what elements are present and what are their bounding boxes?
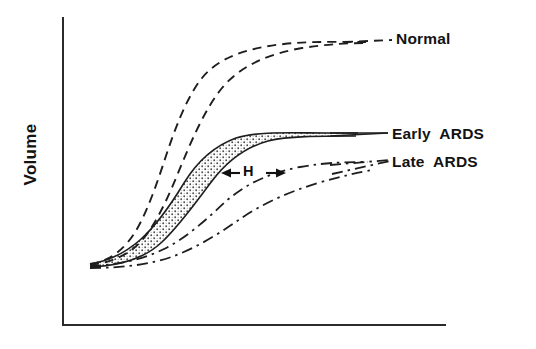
legend-label-normal: Normal — [396, 31, 451, 47]
normal-leader-line — [344, 40, 392, 42]
early-ards-hysteresis-area — [90, 133, 358, 267]
hysteresis-label: H — [243, 164, 253, 179]
hysteresis-arrow-group — [221, 169, 286, 178]
hysteresis-stipple-fill — [90, 133, 356, 267]
chart-canvas — [0, 0, 536, 349]
axes-group — [63, 18, 445, 325]
y-axis-label: Volume — [22, 103, 39, 207]
legend-label-early-ards: Early ARDS — [392, 126, 484, 142]
pressure-volume-figure: Volume H Normal Early ARDS Late ARDS — [0, 0, 536, 349]
legend-label-late-ards: Late ARDS — [392, 154, 478, 170]
leader-lines-group — [330, 40, 392, 174]
